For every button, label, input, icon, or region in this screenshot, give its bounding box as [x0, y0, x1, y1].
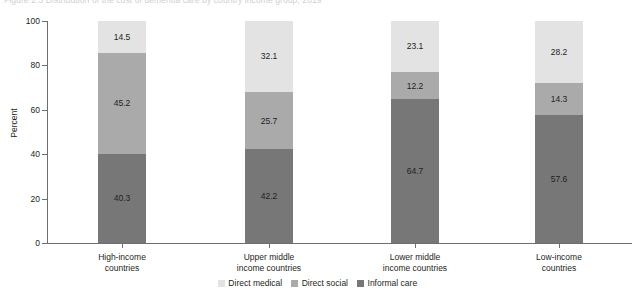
- bar-segment-value-label: 14.3: [551, 95, 568, 104]
- y-axis-tick-label: 60: [0, 105, 40, 115]
- category-label-line1: Low-income: [499, 252, 619, 263]
- bar-segment-value-label: 25.7: [261, 117, 278, 126]
- legend-label: Direct social: [302, 278, 348, 288]
- legend-label: Direct medical: [228, 278, 282, 288]
- legend-label: Informal care: [368, 278, 418, 288]
- bar-segment-value-label: 14.5: [114, 33, 131, 42]
- bar-segment-value-label: 28.2: [551, 48, 568, 57]
- y-axis-line: [47, 21, 48, 244]
- y-axis-title: Percent: [9, 93, 19, 153]
- bar-segment-informal[interactable]: 42.2: [245, 149, 293, 243]
- bar-segment-value-label: 32.1: [261, 52, 278, 61]
- bar-segment-informal[interactable]: 57.6: [535, 115, 583, 243]
- y-axis-tick-label: 100: [0, 16, 40, 26]
- category-label-line2: income countries: [355, 263, 475, 274]
- y-axis-tick-label: 20: [0, 194, 40, 204]
- y-axis-tick: [42, 243, 47, 244]
- bar-segment-value-label: 57.6: [551, 175, 568, 184]
- category-label-line2: countries: [62, 263, 182, 274]
- x-axis-tick: [122, 243, 123, 248]
- stacked-bar[interactable]: 57.614.328.2: [535, 21, 583, 243]
- y-axis-tick: [42, 65, 47, 66]
- category-label-line2: countries: [499, 263, 619, 274]
- plot-area: Percent 020406080100 40.345.214.542.225.…: [0, 0, 635, 296]
- bar-segment-value-label: 23.1: [407, 42, 424, 51]
- x-axis-tick: [415, 243, 416, 248]
- bar-segment-social[interactable]: 14.3: [535, 83, 583, 115]
- bar-segment-value-label: 64.7: [407, 167, 424, 176]
- x-axis-category-label: Lower middleincome countries: [355, 252, 475, 273]
- category-label-line1: Lower middle: [355, 252, 475, 263]
- stacked-bar[interactable]: 40.345.214.5: [98, 21, 146, 243]
- legend-item[interactable]: Direct social: [291, 278, 348, 288]
- legend-swatch-icon: [291, 280, 298, 287]
- bar-segment-medical[interactable]: 23.1: [391, 21, 439, 72]
- bar-segment-value-label: 12.2: [407, 82, 424, 91]
- bar-segment-value-label: 45.2: [114, 99, 131, 108]
- bar-segment-social[interactable]: 25.7: [245, 92, 293, 149]
- x-axis-tick: [269, 243, 270, 248]
- bar-segment-medical[interactable]: 28.2: [535, 21, 583, 84]
- bar-segment-informal[interactable]: 64.7: [391, 99, 439, 243]
- x-axis-tick: [559, 243, 560, 248]
- bar-segment-value-label: 42.2: [261, 192, 278, 201]
- legend-item[interactable]: Direct medical: [218, 278, 282, 288]
- legend-swatch-icon: [218, 280, 225, 287]
- bar-segment-medical[interactable]: 14.5: [98, 21, 146, 53]
- x-axis-category-label: Upper middleincome countries: [209, 252, 329, 273]
- bar-segment-medical[interactable]: 32.1: [245, 21, 293, 92]
- y-axis-tick: [42, 154, 47, 155]
- x-axis-category-label: Low-incomecountries: [499, 252, 619, 273]
- y-axis-tick-label: 0: [0, 238, 40, 248]
- chart-figure: Figure 2.3 Distribution of the cost of d…: [0, 0, 635, 296]
- legend-swatch-icon: [357, 280, 364, 287]
- y-axis-tick-label: 80: [0, 60, 40, 70]
- category-label-line1: High-income: [62, 252, 182, 263]
- legend-item[interactable]: Informal care: [357, 278, 417, 288]
- stacked-bar[interactable]: 64.712.223.1: [391, 21, 439, 243]
- y-axis-tick: [42, 21, 47, 22]
- chart-legend: Direct medicalDirect socialInformal care: [0, 278, 635, 288]
- y-axis-tick: [42, 110, 47, 111]
- y-axis-tick-label: 40: [0, 149, 40, 159]
- bar-segment-informal[interactable]: 40.3: [98, 154, 146, 243]
- bar-segment-social[interactable]: 12.2: [391, 72, 439, 99]
- category-label-line1: Upper middle: [209, 252, 329, 263]
- y-axis-tick: [42, 199, 47, 200]
- bar-segment-value-label: 40.3: [114, 194, 131, 203]
- category-label-line2: income countries: [209, 263, 329, 274]
- bar-segment-social[interactable]: 45.2: [98, 53, 146, 153]
- stacked-bar[interactable]: 42.225.732.1: [245, 21, 293, 243]
- x-axis-category-label: High-incomecountries: [62, 252, 182, 273]
- x-axis-line: [47, 243, 632, 244]
